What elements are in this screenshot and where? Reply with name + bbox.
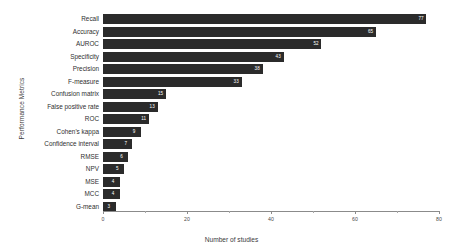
category-label: Specificity [70, 52, 99, 62]
x-axis-tick [355, 211, 356, 214]
bar [103, 164, 124, 174]
bar-value-label: 33 [234, 78, 239, 86]
plot-area: Recall77Accuracy65AUROC52Specificity43Pr… [103, 10, 439, 210]
category-label: RMSE [81, 152, 99, 162]
bar [103, 64, 263, 74]
bar [103, 52, 284, 62]
x-axis-tick [271, 211, 272, 214]
bar [103, 89, 166, 99]
category-label: False positive rate [47, 102, 99, 112]
x-axis-minor-tick [145, 211, 146, 213]
category-label: NPV [86, 164, 99, 174]
y-axis-title: Performance Metrics [18, 44, 25, 174]
x-axis-tick [187, 211, 188, 214]
x-axis-tick-label: 20 [184, 216, 190, 222]
bar-value-label: 4 [112, 178, 115, 186]
bar-value-label: 9 [133, 128, 136, 136]
category-label: Accuracy [73, 27, 99, 37]
category-label: MCC [84, 189, 99, 199]
x-axis-tick [439, 211, 440, 214]
x-axis-tick-label: 60 [352, 216, 358, 222]
bar [103, 77, 242, 87]
bar-value-label: 65 [368, 28, 373, 36]
bar-value-label: 13 [150, 103, 155, 111]
bar-value-label: 38 [255, 65, 260, 73]
category-label: Precision [73, 64, 99, 74]
bar [103, 14, 426, 24]
category-label: Cohen's kappa [57, 127, 99, 137]
category-label: G-mean [76, 202, 99, 212]
category-label: F-measure [68, 77, 99, 87]
category-label: Confusion matrix [51, 89, 99, 99]
bar-value-label: 43 [276, 53, 281, 61]
category-label: ROC [85, 114, 99, 124]
bar-value-label: 5 [116, 165, 119, 173]
bar-value-label: 15 [158, 90, 163, 98]
bar-value-label: 3 [108, 203, 111, 211]
bar-value-label: 11 [141, 115, 146, 123]
x-axis-title: Number of studies [0, 236, 463, 243]
bar-value-label: 4 [112, 190, 115, 198]
bar-value-label: 7 [124, 140, 127, 148]
x-axis-minor-tick [397, 211, 398, 213]
x-axis-minor-tick [313, 211, 314, 213]
bar [103, 139, 132, 149]
bar-value-label: 77 [418, 15, 423, 23]
category-label: Recall [81, 14, 99, 24]
bar-value-label: 52 [313, 40, 318, 48]
x-axis-tick-label: 40 [268, 216, 274, 222]
category-label: AUROC [76, 39, 99, 49]
x-axis-minor-tick [229, 211, 230, 213]
bar [103, 39, 321, 49]
bar-value-label: 6 [120, 153, 123, 161]
x-axis-tick-label: 0 [102, 216, 105, 222]
category-label: MSE [85, 177, 99, 187]
bar [103, 152, 128, 162]
x-axis-tick [103, 211, 104, 214]
bar-chart: Performance Metrics Recall77Accuracy65AU… [0, 0, 463, 250]
bar [103, 27, 376, 37]
x-axis-tick-label: 80 [436, 216, 442, 222]
category-label: Confidence interval [44, 139, 99, 149]
